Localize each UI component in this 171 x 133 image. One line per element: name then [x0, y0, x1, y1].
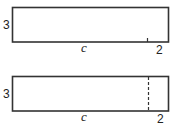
top-height-label: 3 [3, 18, 10, 32]
bottom-rectangle [13, 77, 169, 112]
bottom-height-label: 3 [3, 87, 10, 101]
diagram-canvas: 3 c 2 3 c 2 [0, 0, 171, 133]
top-length-label: c [81, 40, 87, 55]
top-figure: 3 c 2 [3, 8, 169, 58]
bottom-extension-label: 2 [157, 112, 164, 126]
bottom-length-label: c [81, 109, 87, 124]
top-rectangle [13, 8, 169, 43]
top-extension-label: 2 [156, 43, 163, 57]
bottom-figure: 3 c 2 [3, 77, 169, 127]
